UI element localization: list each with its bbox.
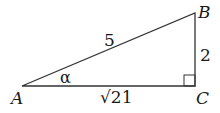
side-label-bc: 2 bbox=[200, 47, 211, 64]
side-label-ab: 5 bbox=[104, 32, 115, 49]
vertex-label-b: B bbox=[198, 4, 211, 21]
vertex-label-c: C bbox=[196, 90, 209, 107]
angle-label-alpha: α bbox=[60, 70, 71, 86]
triangle-diagram: A B C 5 2 √21 α bbox=[0, 0, 220, 113]
side-label-ac: √21 bbox=[100, 89, 132, 106]
vertex-label-a: A bbox=[11, 90, 23, 107]
right-angle-marker bbox=[184, 75, 195, 86]
